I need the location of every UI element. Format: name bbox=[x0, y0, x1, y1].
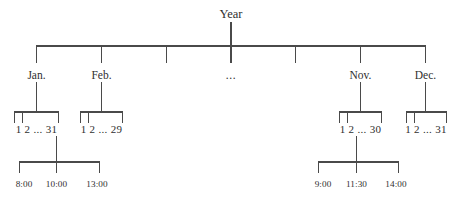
tree-diagram: Year Jan. Feb. ... Nov. Dec. 1 2 ... 31 … bbox=[0, 0, 464, 199]
month-label-dec: Dec. bbox=[415, 69, 437, 81]
month-label-feb: Feb. bbox=[91, 69, 111, 81]
month-label-jan: Jan. bbox=[27, 69, 45, 81]
month-label-ellipsis: ... bbox=[226, 69, 236, 81]
nov-time-label-1: 9:00 bbox=[315, 179, 332, 189]
nov-time-label-3: 14:00 bbox=[385, 179, 407, 189]
jan-days-label: 1 2 ... 31 bbox=[16, 123, 58, 135]
jan-time-label-1: 8:00 bbox=[16, 179, 33, 189]
jan-time-label-3: 13:00 bbox=[86, 179, 108, 189]
nov-days-label: 1 2 ... 30 bbox=[340, 123, 382, 135]
feb-days-label: 1 2 ... 29 bbox=[81, 123, 123, 135]
nov-time-label-2: 11:30 bbox=[346, 179, 367, 189]
jan-time-label-2: 10:00 bbox=[46, 179, 68, 189]
dec-days-label: 1 2 ... 31 bbox=[405, 123, 447, 135]
tree-diagram-canvas: Year Jan. Feb. ... Nov. Dec. 1 2 ... 31 … bbox=[0, 0, 464, 199]
root-label-year: Year bbox=[219, 7, 243, 21]
month-label-nov: Nov. bbox=[350, 69, 372, 81]
